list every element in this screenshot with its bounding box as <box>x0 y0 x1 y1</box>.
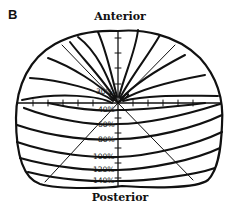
label-140: 140% <box>93 176 114 185</box>
contour-diagram: 30% 40% 60% 80% 100% 120% 140% <box>0 0 230 213</box>
label-30: 30% <box>96 87 113 96</box>
label-80: 80% <box>98 135 115 144</box>
contour-100 <box>17 132 222 157</box>
label-120: 120% <box>93 165 114 174</box>
posterior-contours <box>17 103 222 181</box>
contour-40 <box>48 103 205 111</box>
label-40: 40% <box>98 105 115 114</box>
label-100: 100% <box>93 152 114 161</box>
contour-80 <box>17 115 222 140</box>
anterior-contours <box>22 30 218 103</box>
label-60: 60% <box>98 120 115 129</box>
